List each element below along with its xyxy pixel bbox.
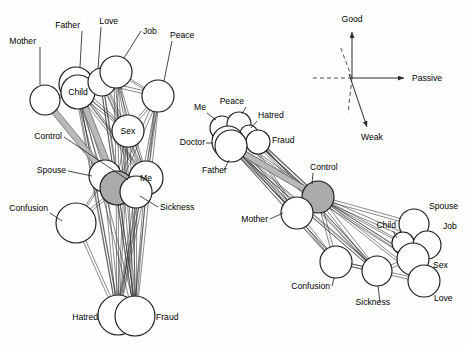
node-label-mother: Mother (9, 36, 36, 46)
axis-dashed-upper (340, 46, 352, 78)
node-label-control: Control (310, 162, 338, 172)
node-label-sex: Sex (121, 126, 137, 136)
leader-line-love (98, 27, 101, 69)
node-label-spouse: Spouse (37, 165, 66, 175)
node-mother[interactable] (30, 85, 60, 115)
node-label-me: Me (194, 102, 206, 112)
axis-dashed-lower (348, 78, 352, 113)
node-label-peace: Peace (170, 30, 195, 40)
node-label-spouse: Spouse (429, 201, 458, 211)
axis-label-weak: Weak (361, 132, 384, 142)
right-graph-nodes (210, 112, 441, 297)
graph-edge (323, 197, 410, 221)
axis-legend-group: GoodPassiveWeak (313, 14, 442, 142)
node-sickness[interactable] (362, 256, 392, 286)
node-label-love: Love (434, 293, 453, 303)
leader-line-father (80, 31, 82, 67)
leader-line-me (207, 113, 216, 120)
node-job[interactable] (100, 56, 132, 88)
node-father[interactable] (215, 130, 247, 162)
node-label-hatred: Hatred (72, 312, 98, 322)
node-label-fraud: Fraud (272, 135, 295, 145)
figure-root: MotherFatherChildLoveJobPeaceSexSpouseCo… (0, 0, 467, 348)
node-label-mother: Mother (241, 214, 268, 224)
diagram-canvas: MotherFatherChildLoveJobPeaceSexSpouseCo… (0, 0, 467, 348)
node-confusion[interactable] (320, 246, 352, 278)
axis-label-passive: Passive (412, 73, 442, 83)
node-label-sickness: Sickness (356, 297, 390, 307)
graph-edge (136, 197, 137, 309)
node-label-confusion: Confusion (9, 203, 48, 213)
node-peace[interactable] (142, 80, 174, 112)
node-label-sickness: Sickness (160, 202, 194, 212)
leader-line-peace (164, 41, 172, 81)
node-label-child: Child (376, 220, 396, 230)
node-label-father: Father (202, 165, 227, 175)
node-label-control: Control (34, 131, 62, 141)
node-confusion[interactable] (56, 203, 96, 243)
leader-line-confusion (332, 278, 334, 286)
graph-edge (127, 136, 133, 309)
node-label-me: Me (140, 173, 152, 183)
node-mother[interactable] (281, 197, 313, 229)
node-label-job: Job (143, 26, 157, 36)
node-label-love: Love (99, 16, 118, 26)
axis-label-good: Good (341, 14, 362, 24)
node-fraud[interactable] (115, 296, 155, 336)
node-label-hatred: Hatred (258, 110, 284, 120)
node-label-confusion: Confusion (291, 281, 330, 291)
axis-weak-arrow (349, 74, 367, 127)
node-label-job: Job (443, 221, 457, 231)
node-fraud[interactable] (246, 130, 270, 154)
leader-line-spouse (68, 171, 92, 176)
node-label-father: Father (55, 20, 80, 30)
left-graph-nodes (30, 56, 174, 336)
node-label-child: Child (68, 87, 88, 97)
leader-line-job (124, 31, 141, 58)
node-label-fraud: Fraud (156, 312, 179, 322)
node-label-sex: Sex (433, 260, 449, 270)
node-label-peace: Peace (220, 96, 245, 106)
node-label-doctor: Doctor (180, 137, 205, 147)
